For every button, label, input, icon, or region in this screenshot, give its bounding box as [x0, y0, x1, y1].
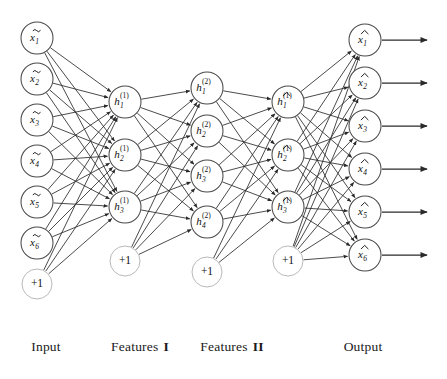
connection-edge: [216, 102, 278, 193]
network-node-input-5[interactable]: x5: [21, 186, 53, 218]
network-node-output-3[interactable]: x3: [349, 110, 381, 142]
layer-caption-features-2: FeaturesII: [200, 339, 263, 354]
diagram-canvas: x1x2x3x4x5x6+1h1(1)h2(1)h3(1)+1h1(2)h2(2…: [0, 0, 447, 379]
network-node-input-1[interactable]: x1: [21, 22, 53, 54]
connection-edge: [52, 214, 109, 237]
connection-edge: [223, 108, 272, 126]
connection-edge: [302, 216, 350, 246]
network-node-features-2-4[interactable]: h4(2): [191, 206, 223, 238]
connection-edge: [44, 118, 118, 270]
layer-captions: InputFeaturesIFeaturesIIOutput: [31, 339, 382, 354]
connection-edge: [304, 87, 348, 98]
connection-edge: [298, 168, 354, 241]
connection-edge: [219, 218, 274, 262]
network-node-input-6[interactable]: x6: [21, 227, 53, 259]
network-node-output-4[interactable]: x4: [349, 153, 381, 185]
connection-edge: [49, 219, 112, 274]
connection-edge: [132, 104, 200, 247]
network-node-output-5[interactable]: x5: [349, 196, 381, 228]
network-node-input-4[interactable]: x4: [21, 145, 53, 177]
bias-label: +1: [31, 277, 43, 289]
bias-label: +1: [282, 254, 294, 266]
network-node-output-2[interactable]: x2: [349, 67, 381, 99]
network-node-features-1-decoded-3[interactable]: h3(1): [272, 191, 304, 223]
connection-edge: [46, 169, 115, 271]
bias-label: +1: [119, 254, 131, 266]
network-node-output-6[interactable]: x6: [349, 239, 381, 271]
connection-edge: [223, 91, 271, 99]
connection-edge: [137, 113, 194, 164]
connection-edge: [216, 117, 278, 209]
connection-edge: [304, 158, 348, 166]
network-node-features-1-3[interactable]: h3(1): [109, 191, 141, 223]
network-node-features-1-decoded-2[interactable]: h2(1): [272, 139, 304, 171]
connection-edge: [138, 165, 194, 210]
connection-edge: [299, 139, 353, 195]
connection-edge: [220, 166, 275, 211]
connection-edge: [49, 167, 113, 231]
network-node-features-2-3[interactable]: h3(2): [191, 160, 223, 192]
connection-edge: [141, 91, 189, 99]
bias-label: +1: [201, 265, 213, 277]
network-node-output-1[interactable]: x1: [349, 24, 381, 56]
connection-edge: [140, 182, 190, 201]
bias-node-features-2[interactable]: +1: [192, 257, 222, 287]
network-node-input-2[interactable]: x2: [21, 63, 53, 95]
layer-caption-input: Input: [31, 339, 61, 354]
network-node-features-2-2[interactable]: h2(2): [191, 115, 223, 147]
network-node-input-3[interactable]: x3: [21, 104, 53, 136]
connection-edge: [139, 230, 191, 255]
layer-caption-features-1: FeaturesI: [111, 339, 169, 354]
connection-edge: [304, 107, 349, 121]
network-node-features-1-1[interactable]: h1(1): [109, 86, 141, 118]
network-node-features-1-decoded-1[interactable]: h1(1): [272, 86, 304, 118]
connection-edge: [301, 165, 351, 202]
connection-edge: [46, 93, 115, 193]
bias-node-input[interactable]: +1: [22, 269, 52, 299]
connection-edge: [223, 159, 271, 171]
network-node-features-2-1[interactable]: h1(2): [191, 72, 223, 104]
output-arrows: [382, 40, 427, 255]
network-node-features-1-2[interactable]: h2(1): [109, 139, 141, 171]
network-nodes: x1x2x3x4x5x6+1h1(1)h2(1)h3(1)+1h1(2)h2(2…: [21, 22, 381, 299]
neural-network-diagram: x1x2x3x4x5x6+1h1(1)h2(1)h3(1)+1h1(2)h2(2…: [0, 0, 447, 379]
bias-node-features-1[interactable]: +1: [110, 246, 140, 276]
connection-edge: [303, 256, 347, 259]
layer-caption-output: Output: [344, 339, 383, 354]
connection-edge: [53, 106, 108, 117]
connection-edge: [49, 132, 113, 195]
connection-edge: [46, 117, 116, 229]
bias-node-features-1-decoded[interactable]: +1: [273, 246, 303, 276]
